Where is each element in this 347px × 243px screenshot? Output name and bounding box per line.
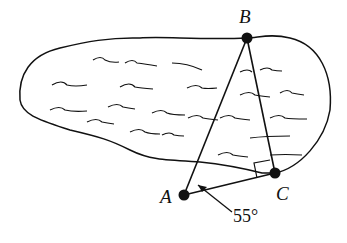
point-b <box>242 33 253 44</box>
label-c: C <box>276 183 289 205</box>
label-a: A <box>160 186 172 208</box>
point-c <box>270 168 281 179</box>
segment-ac <box>184 173 275 195</box>
angle-label: 55° <box>233 206 258 227</box>
lake-outline <box>20 36 331 173</box>
label-b: B <box>239 6 251 28</box>
point-a <box>179 190 190 201</box>
lake-diagram <box>0 0 347 243</box>
segment-bc <box>247 38 275 173</box>
